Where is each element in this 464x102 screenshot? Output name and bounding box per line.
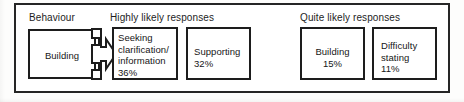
node-difficulty-value: 11%	[381, 63, 399, 74]
node-seeking-line-3: information	[118, 55, 166, 66]
node-supporting-value: 32%	[194, 58, 213, 69]
node-building-quite-text: Building 15%	[302, 46, 363, 69]
node-seeking-line-2: clarification/	[118, 44, 169, 55]
node-building-source-label: Building	[30, 50, 94, 62]
node-building-quite-value: 15%	[323, 58, 342, 69]
node-difficulty-text: Difficulty stating 11%	[381, 40, 433, 75]
node-difficulty-stating: Difficulty stating 11%	[372, 27, 437, 80]
node-seeking-value: 36%	[118, 67, 137, 78]
node-seeking-line-1: Seeking	[118, 32, 153, 43]
caption-behaviour: Behaviour	[29, 12, 75, 24]
node-difficulty-line-2: stating	[381, 52, 409, 63]
scan-shadow-bottom	[0, 98, 464, 102]
scan-shadow-left	[0, 0, 5, 102]
node-supporting-label: Supporting	[194, 46, 240, 57]
node-building-quite-likely: Building 15%	[300, 27, 365, 80]
node-building-quite-label: Building	[315, 46, 349, 57]
node-supporting-text: Supporting 32%	[194, 46, 247, 69]
node-building-source: Building	[28, 29, 96, 79]
node-supporting: Supporting 32%	[186, 27, 251, 80]
node-seeking-clarification-text: Seeking clarification/ information 36%	[118, 32, 174, 78]
figure-canvas: Behaviour Highly likely responses Quite …	[0, 0, 464, 102]
node-seeking-clarification: Seeking clarification/ information 36%	[112, 27, 178, 80]
caption-highly-likely-responses: Highly likely responses	[110, 12, 214, 24]
caption-quite-likely-responses: Quite likely responses	[300, 12, 400, 24]
node-difficulty-line-1: Difficulty	[381, 40, 417, 51]
